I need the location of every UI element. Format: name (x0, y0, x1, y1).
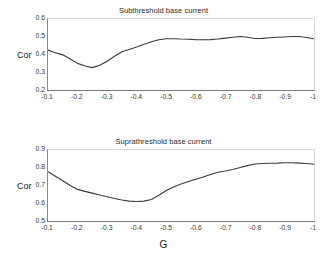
y-axis-ticks-suprathreshold: 0.9 0.8 0.7 0.6 0.5 (17, 149, 45, 222)
x-tick-label: -0.3 (101, 93, 113, 100)
y-tick-label: 0.2 (19, 86, 45, 93)
x-tick-label: -0.9 (279, 224, 291, 231)
y-tick-label: 0.6 (19, 199, 45, 206)
x-tick-label: -1 (310, 93, 316, 100)
x-tick-label: -0.8 (250, 93, 262, 100)
chart-title-subthreshold: Subthreshold base current (0, 6, 327, 15)
x-tick-label: -0.2 (71, 224, 83, 231)
y-axis-ticks-subthreshold: 0.6 0.5 0.4 0.3 0.2 (17, 18, 45, 91)
y-tick-label: 0.8 (19, 163, 45, 170)
x-tick-label: -0.6 (190, 93, 202, 100)
chart-panel-subthreshold: Subthreshold base current Cor 0.6 0.5 0.… (0, 0, 327, 131)
y-tick-label: 0.5 (19, 217, 45, 224)
plot-area-subthreshold (47, 18, 315, 91)
x-tick-label: -0.8 (250, 224, 262, 231)
chart-title-suprathreshold: Suprathreshold base current (0, 137, 327, 146)
x-tick-label: -0.6 (190, 224, 202, 231)
x-tick-label: -0.7 (220, 93, 232, 100)
chart-panel-suprathreshold: Suprathreshold base current Cor 0.9 0.8 … (0, 131, 327, 267)
x-tick-label: -0.7 (220, 224, 232, 231)
y-tick-label: 0.5 (19, 32, 45, 39)
x-tick-label: -0.1 (41, 224, 53, 231)
x-axis-ticks-subthreshold: -0.1 -0.2 -0.3 -0.4 -0.5 -0.6 -0.7 -0.8 … (47, 92, 315, 106)
series-line-subthreshold (48, 19, 314, 90)
x-tick-label: -0.1 (41, 93, 53, 100)
y-tick-label: 0.3 (19, 68, 45, 75)
series-line-suprathreshold (48, 150, 314, 221)
y-tick-label: 0.6 (19, 14, 45, 21)
x-tick-label: -0.9 (279, 93, 291, 100)
x-tick-label: -1 (310, 224, 316, 231)
x-tick-label: -0.4 (130, 224, 142, 231)
x-tick-label: -0.4 (130, 93, 142, 100)
x-tick-label: -0.5 (160, 93, 172, 100)
y-tick-label: 0.4 (19, 50, 45, 57)
y-tick-label: 0.7 (19, 181, 45, 188)
x-tick-label: -0.5 (160, 224, 172, 231)
x-tick-label: -0.3 (101, 224, 113, 231)
y-tick-label: 0.9 (19, 145, 45, 152)
x-axis-label-G: G (0, 239, 327, 250)
x-axis-ticks-suprathreshold: -0.1 -0.2 -0.3 -0.4 -0.5 -0.6 -0.7 -0.8 … (47, 223, 315, 237)
x-tick-label: -0.2 (71, 93, 83, 100)
plot-area-suprathreshold (47, 149, 315, 222)
figure-canvas: Subthreshold base current Cor 0.6 0.5 0.… (0, 0, 327, 267)
